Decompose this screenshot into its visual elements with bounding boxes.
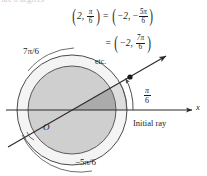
angle-label-pi-over-6: π 6 (143, 87, 151, 105)
paren-open-icon: ( (112, 11, 116, 22)
rhs2-angle-numerator: 7π (136, 35, 145, 42)
equals-sign-2: = (103, 39, 113, 49)
equals-sign-1: = (101, 12, 111, 22)
equation-rhs-group-1: ( −2 , − 5π 6 ) (111, 9, 155, 25)
paren-close-icon: ) (147, 38, 151, 49)
pi6-denominator: 6 (144, 97, 150, 105)
paren-close-icon: ) (150, 11, 154, 22)
polar-coordinates-figure: are 6 degrees ( 2 , π 6 ) = ( −2 , − (0, 0, 207, 176)
equation-line-2: = ( −2 , 7π 6 ) (103, 33, 152, 52)
x-axis-label: x (196, 103, 200, 112)
rhs2-radius: −2 (119, 39, 130, 49)
initial-ray-label: Initial ray (133, 119, 166, 128)
paren-close-icon: ) (96, 11, 100, 22)
pi6-numerator: π (144, 87, 150, 95)
rhs2-comma: , (131, 39, 136, 49)
rhs1-angle-sign: − (133, 12, 138, 22)
paren-open-icon: ( (72, 11, 76, 22)
equation-line-1: ( 2 , π 6 ) = ( −2 , − 5π 6 (71, 9, 154, 26)
plotted-point (127, 74, 132, 79)
lhs-angle-numerator: π (88, 9, 94, 16)
equation-lhs-group: ( 2 , π 6 ) (71, 9, 101, 25)
rhs1-angle-fraction: 5π 6 (139, 9, 148, 25)
cropped-top-text: are 6 degrees (2, 0, 44, 4)
lhs-comma: , (82, 12, 87, 22)
lhs-angle-fraction: π 6 (87, 9, 94, 25)
rhs2-angle-fraction: 7π 6 (136, 35, 145, 51)
lhs-angle-denominator: 6 (88, 18, 94, 25)
etc-label: etc. (95, 58, 106, 66)
angle-label-7pi-over-6: 7π/6 (23, 47, 39, 56)
rhs1-angle-numerator: 5π (139, 9, 148, 16)
origin-label: O (43, 123, 50, 132)
rhs1-angle-denominator: 6 (140, 18, 146, 25)
rhs2-angle-denominator: 6 (138, 44, 144, 51)
angle-label-negative-5pi-over-6: −5π/6 (75, 158, 96, 167)
paren-open-icon: ( (115, 38, 119, 49)
rhs1-radius: −2 (117, 12, 128, 22)
pi6-fraction: π 6 (144, 87, 151, 105)
equation-rhs-group-2: ( −2 , 7π 6 ) (113, 36, 151, 52)
polar-diagram-canvas (0, 0, 207, 176)
